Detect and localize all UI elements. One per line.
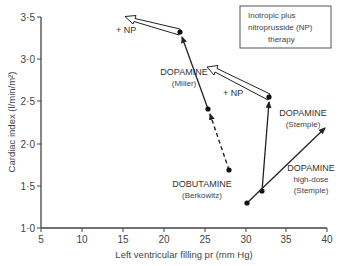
x-tick-label: 35 [280, 234, 292, 245]
x-tick-label: 20 [158, 234, 170, 245]
label-stemple: (Stemple) [286, 120, 321, 129]
legend-box: Inotropic plus nitroprusside (NP) therap… [240, 6, 331, 48]
label-miller: (Miller) [172, 79, 197, 88]
y-tick-label: 1·0 [21, 223, 36, 234]
x-tick-label: 40 [321, 234, 333, 245]
np-label-stemple: + NP [223, 88, 243, 98]
label-dopamine-high-dose: DOPAMINE [287, 163, 334, 173]
legend-line: Inotropic plus [248, 11, 296, 20]
label-dopamine-miller: DOPAMINE [160, 67, 207, 77]
legend-line: nitroprusside (NP) [248, 23, 313, 32]
x-tick-label: 30 [240, 234, 252, 245]
y-tick-label: 3·0 [21, 54, 36, 65]
x-axis-title: Left ventricular filling pr (mm Hg) [115, 249, 252, 260]
y-tick-label: 3·5 [21, 12, 36, 23]
label-dobutamine: DOBUTAMINE [172, 179, 231, 189]
series-dopamine-stemple [259, 102, 269, 194]
y-tick-label: 2·0 [21, 139, 36, 150]
y-axis: 3·5 3·0 2·5 2·0 1·5 1·0 [21, 12, 41, 234]
label-high-dose: high-dose [293, 175, 329, 184]
x-tick-label: 25 [199, 234, 211, 245]
label-berkowitz: (Berkowitz) [182, 191, 222, 200]
y-tick-label: 1·5 [21, 181, 36, 192]
series-dobutamine-berkowitz [210, 114, 232, 173]
x-tick-label: 5 [38, 234, 44, 245]
label-dopamine-stemple: DOPAMINE [279, 108, 326, 118]
x-axis: 5 10 15 20 25 30 35 40 [38, 228, 333, 245]
y-tick-label: 2·5 [21, 96, 36, 107]
x-tick-label: 10 [76, 234, 88, 245]
y-axis-title: Cardiac index (l/min/m²) [6, 72, 17, 173]
x-tick-label: 15 [117, 234, 129, 245]
chart: 3·5 3·0 2·5 2·0 1·5 1·0 5 10 15 20 25 30… [0, 0, 356, 266]
np-label-miller: + NP [116, 25, 136, 35]
legend-line: therapy [268, 35, 295, 44]
label-stemple-high-dose: (Stemple) [294, 186, 329, 195]
